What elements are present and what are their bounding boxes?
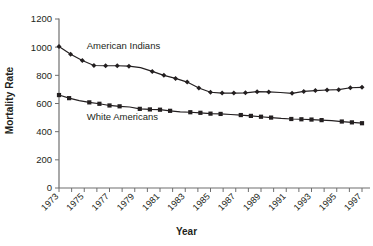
y-tick-label-800: 800 <box>36 70 52 81</box>
marker-diamond <box>150 69 155 74</box>
marker-square <box>97 102 101 106</box>
y-tick-label-0: 0 <box>47 182 52 193</box>
x-tick-label-1997: 1997 <box>342 191 363 212</box>
marker-square <box>67 96 71 100</box>
marker-diamond <box>313 88 318 93</box>
marker-diamond <box>80 58 85 63</box>
marker-diamond <box>208 90 213 95</box>
y-tick-label-400: 400 <box>36 126 52 137</box>
marker-square <box>198 111 202 115</box>
x-tick-label-1977: 1977 <box>90 191 111 212</box>
y-tick-label-600: 600 <box>36 98 52 109</box>
x-tick-label-1989: 1989 <box>241 191 262 212</box>
series-annotation-white-americans: White Americans <box>87 111 159 122</box>
marker-square <box>87 100 91 104</box>
x-tick-label-1995: 1995 <box>317 191 338 212</box>
marker-square <box>219 112 223 116</box>
x-tick-label-1975: 1975 <box>64 191 85 212</box>
marker-diamond <box>196 86 201 91</box>
marker-diamond <box>301 89 306 94</box>
marker-square <box>360 121 364 125</box>
marker-diamond <box>255 89 260 94</box>
marker-square <box>320 118 324 122</box>
marker-square <box>259 115 263 119</box>
marker-diamond <box>266 89 271 94</box>
x-tick-label-1979: 1979 <box>115 191 136 212</box>
marker-diamond <box>103 63 108 68</box>
marker-diamond <box>173 76 178 81</box>
marker-diamond <box>360 85 365 90</box>
marker-diamond <box>126 64 131 69</box>
chart-container: Mortality Rate Year 12001000800600400200… <box>0 0 373 246</box>
x-tick-label-1981: 1981 <box>140 191 161 212</box>
y-tick-label-1200: 1200 <box>31 13 52 24</box>
marker-square <box>249 114 253 118</box>
marker-square <box>107 103 111 107</box>
y-tick-label-1000: 1000 <box>31 42 52 53</box>
x-tick-label-1973: 1973 <box>39 191 60 212</box>
series-line-american-indians <box>59 46 362 93</box>
marker-diamond <box>185 80 190 85</box>
marker-diamond <box>325 87 330 92</box>
x-tick-label-1987: 1987 <box>216 191 237 212</box>
marker-diamond <box>91 63 96 68</box>
series-annotation-american-indians: American Indians <box>87 40 161 51</box>
x-tick-label-1993: 1993 <box>292 191 313 212</box>
marker-square <box>350 120 354 124</box>
y-tick-label-200: 200 <box>36 154 52 165</box>
marker-square <box>239 113 243 117</box>
marker-square <box>340 119 344 123</box>
marker-diamond <box>231 91 236 96</box>
marker-diamond <box>220 91 225 96</box>
line-chart-plot: 1200100080060040020001973197519771979198… <box>0 0 373 246</box>
marker-diamond <box>336 87 341 92</box>
marker-square <box>118 104 122 108</box>
marker-square <box>309 117 313 121</box>
marker-diamond <box>115 63 120 68</box>
marker-square <box>299 117 303 121</box>
marker-square <box>57 93 61 97</box>
x-tick-label-1985: 1985 <box>191 191 212 212</box>
marker-square <box>158 108 162 112</box>
marker-diamond <box>243 90 248 95</box>
marker-square <box>208 112 212 116</box>
marker-square <box>269 115 273 119</box>
marker-square <box>188 110 192 114</box>
x-tick-label-1983: 1983 <box>165 191 186 212</box>
marker-square <box>168 109 172 113</box>
x-tick-label-1991: 1991 <box>266 191 287 212</box>
marker-square <box>289 117 293 121</box>
marker-diamond <box>161 73 166 78</box>
marker-diamond <box>290 91 295 96</box>
marker-diamond <box>348 85 353 90</box>
